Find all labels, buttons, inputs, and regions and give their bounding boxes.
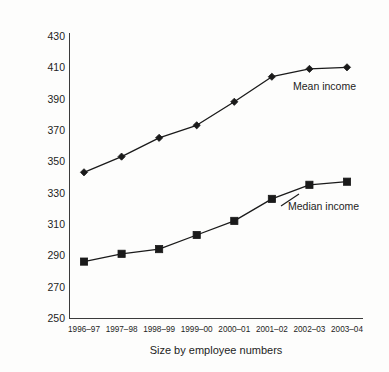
data-point-diamond — [193, 122, 200, 129]
data-point-diamond — [268, 73, 275, 80]
data-point-diamond — [118, 153, 125, 160]
data-point-square — [80, 258, 87, 265]
data-point-square — [306, 181, 313, 188]
x-axis-title: Size by employee numbers — [69, 344, 363, 356]
x-tick-label: 2003–04 — [318, 325, 376, 334]
series-line-median — [84, 182, 347, 262]
data-point-diamond — [80, 169, 87, 176]
series-label-mean: Mean income — [293, 80, 356, 92]
chart-figure: £ per week, 2003–04 prices 2502702903103… — [0, 0, 389, 372]
data-point-square — [231, 217, 238, 224]
data-point-square — [343, 178, 350, 185]
data-point-square — [193, 231, 200, 238]
plot-area — [0, 0, 389, 372]
data-point-square — [156, 246, 163, 253]
data-point-square — [268, 195, 275, 202]
data-point-diamond — [343, 64, 350, 71]
data-point-diamond — [156, 134, 163, 141]
data-point-diamond — [231, 98, 238, 105]
data-point-diamond — [306, 65, 313, 72]
x-axis-tick-labels: 1996–971997–981998–991999–002000–012001–… — [0, 325, 389, 341]
data-point-square — [118, 250, 125, 257]
series-label-median: Median income — [288, 200, 359, 212]
